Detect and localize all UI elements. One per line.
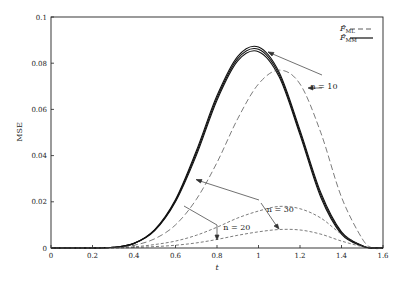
- legend: F̂ML F̂MM: [339, 24, 373, 43]
- y-axis-label: MSE: [15, 122, 24, 142]
- arrow-n30-mm: [197, 180, 259, 200]
- y-tick-label: 0: [43, 245, 47, 253]
- annotation-label: n = 20: [223, 223, 250, 232]
- x-axis-label: t: [215, 263, 219, 272]
- x-axis-ticks: 00.20.40.60.811.21.41.6: [49, 245, 389, 260]
- legend-ml-sub: ML: [346, 28, 356, 34]
- x-tick-label: 0: [49, 252, 53, 260]
- arrowhead-icon: [274, 224, 279, 229]
- x-tick-label: 1: [256, 252, 260, 260]
- plot-frame: [51, 17, 383, 248]
- x-tick-label: 1.6: [377, 252, 389, 260]
- mse-line-chart: 00.20.40.60.811.21.41.6 00.020.040.060.0…: [0, 0, 405, 288]
- x-tick-label: 1.4: [336, 252, 348, 260]
- x-tick-label: 1.2: [294, 252, 305, 260]
- y-tick-label: 0.04: [31, 152, 47, 160]
- series-curves: [51, 46, 383, 249]
- annotation-arrows: [184, 52, 322, 240]
- x-tick-label: 0.6: [170, 252, 182, 260]
- arrow-n20-mm: [184, 206, 217, 238]
- x-tick-label: 0.4: [128, 252, 140, 260]
- curve-mm-n-10: [51, 46, 383, 248]
- y-tick-label: 0.08: [31, 60, 47, 68]
- annotations: n = 10n = 20n = 30: [223, 82, 337, 232]
- x-tick-label: 0.2: [87, 252, 98, 260]
- annotation-label: n = 30: [267, 205, 294, 214]
- y-tick-label: 0.06: [31, 106, 47, 114]
- y-tick-label: 0.02: [31, 198, 47, 206]
- annotation-label: n = 10: [310, 82, 337, 91]
- y-tick-label: 0.1: [36, 14, 47, 22]
- arrowhead-icon: [196, 180, 202, 184]
- x-tick-label: 0.8: [211, 252, 222, 260]
